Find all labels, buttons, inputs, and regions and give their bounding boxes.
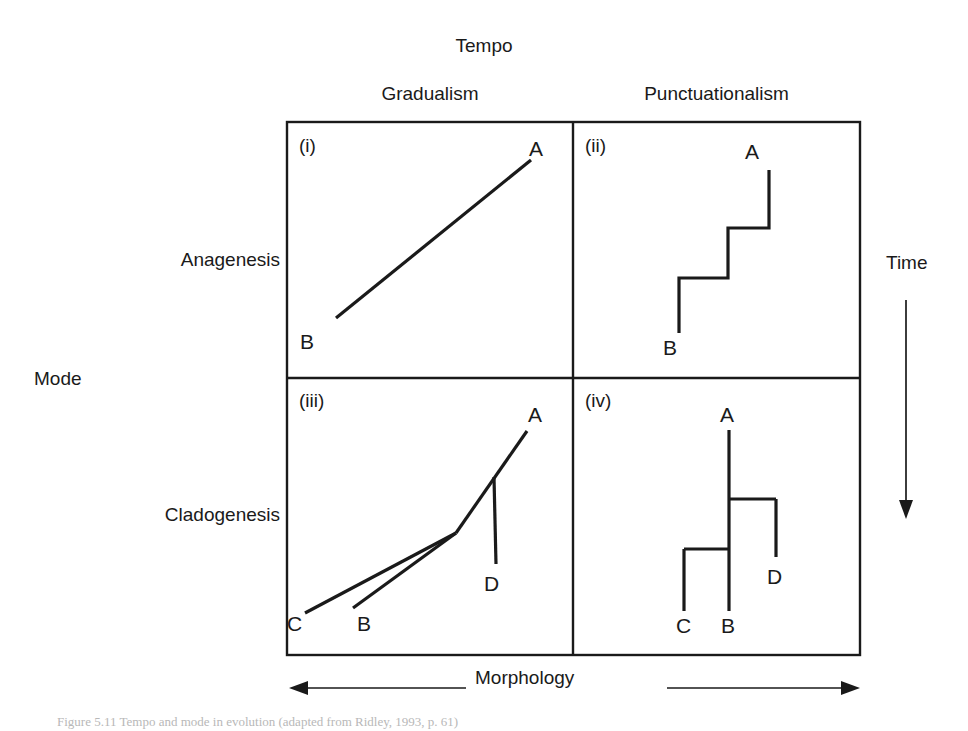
- morphology-arrow-head-left: [289, 681, 308, 695]
- morphology-axis-arrow: [289, 681, 860, 695]
- axis-title-tempo: Tempo: [0, 36, 968, 55]
- column-header-gradualism: Gradualism: [287, 84, 573, 103]
- panel-ii-region[interactable]: [573, 122, 860, 378]
- row-header-cladogenesis: Cladogenesis: [120, 505, 280, 524]
- row-header-anagenesis: Anagenesis: [150, 250, 280, 269]
- axis-title-time: Time: [886, 253, 928, 272]
- panel-iv-region[interactable]: [573, 378, 860, 655]
- axis-title-mode: Mode: [34, 369, 82, 388]
- figure-caption: Figure 5.11 Tempo and mode in evolution …: [57, 714, 757, 730]
- morphology-arrow-head-right: [841, 681, 860, 695]
- time-axis-arrow: [899, 300, 913, 519]
- axis-title-morphology: Morphology: [475, 668, 574, 687]
- figure-container: Tempo Gradualism Punctuationalism Mode A…: [0, 0, 968, 731]
- panel-i-region[interactable]: [287, 122, 573, 378]
- time-arrow-head-down: [899, 500, 913, 519]
- column-header-punctuationalism: Punctuationalism: [573, 84, 860, 103]
- panel-iii-region[interactable]: [287, 378, 573, 655]
